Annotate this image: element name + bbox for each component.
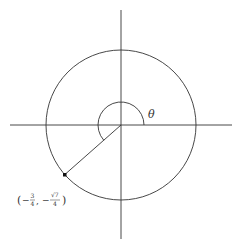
minus-sign-2: − bbox=[42, 195, 50, 205]
numerator-1: 3 bbox=[31, 192, 35, 199]
paren-close: ) bbox=[62, 194, 66, 207]
point-marker bbox=[63, 173, 67, 177]
denominator-2: 4 bbox=[53, 200, 57, 207]
radius-line bbox=[65, 125, 121, 175]
numerator-2: √7 bbox=[51, 191, 59, 198]
unit-circle-diagram: θ ( − 3 4 , − √7 4 ) bbox=[0, 0, 240, 246]
comma: , bbox=[36, 196, 39, 206]
denominator-1: 4 bbox=[31, 200, 35, 207]
point-label: ( − 3 4 , − √7 4 ) bbox=[17, 191, 66, 207]
theta-label: θ bbox=[148, 108, 155, 121]
paren-open: ( bbox=[17, 194, 21, 207]
minus-sign-1: − bbox=[22, 195, 30, 205]
